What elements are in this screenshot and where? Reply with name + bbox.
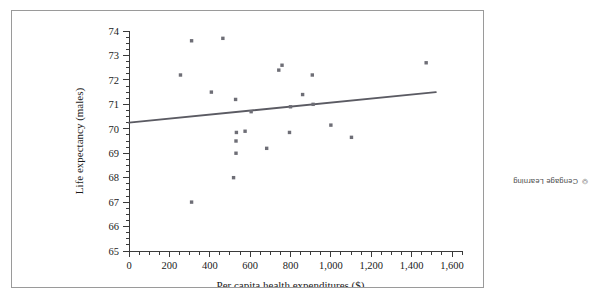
data-point (350, 136, 353, 139)
data-point (221, 37, 224, 40)
data-point (234, 139, 237, 142)
data-point (277, 68, 280, 71)
y-tick-label: 65 (109, 246, 120, 257)
x-tick-label: 1,000 (319, 260, 343, 271)
data-point (235, 131, 238, 134)
data-point (311, 73, 314, 76)
data-point (265, 147, 268, 150)
y-tick-label: 66 (109, 221, 120, 232)
data-point (232, 176, 235, 179)
y-tick-label: 70 (109, 124, 120, 135)
y-tick-label: 68 (109, 172, 120, 183)
copyright-attribution: © Cengage Learning (513, 177, 589, 186)
trend-line (129, 92, 436, 123)
data-point (179, 73, 182, 76)
x-tick-label: 0 (126, 260, 131, 271)
x-tick-label: 400 (202, 260, 218, 271)
x-tick-label: 600 (242, 260, 258, 271)
y-tick-label: 74 (109, 26, 120, 37)
y-axis-title: Life expectancy (males) (73, 88, 86, 195)
data-point (280, 64, 283, 67)
x-tick-label: 800 (283, 260, 299, 271)
data-point (243, 130, 246, 133)
data-point (311, 103, 314, 106)
data-point (190, 39, 193, 42)
data-point (301, 93, 304, 96)
y-tick-label: 67 (109, 197, 120, 208)
plot-frame: 6566676869707172737402004006008001,0001,… (11, 10, 484, 288)
x-tick-label: 1,600 (440, 260, 464, 271)
y-tick-label: 73 (109, 50, 120, 61)
y-tick-label: 71 (109, 99, 120, 110)
data-point (329, 123, 332, 126)
data-point (424, 61, 427, 64)
data-point (289, 105, 292, 108)
data-point (288, 131, 291, 134)
data-point (190, 200, 193, 203)
data-point (210, 90, 213, 93)
x-tick-label: 1,400 (400, 260, 424, 271)
x-axis-title: Per capita health expenditures ($) (217, 279, 365, 287)
data-point (234, 98, 237, 101)
y-tick-label: 72 (109, 75, 120, 86)
y-tick-label: 69 (109, 148, 120, 159)
x-tick-label: 200 (162, 260, 178, 271)
data-point (249, 110, 252, 113)
scatter-chart: 6566676869707172737402004006008001,0001,… (12, 11, 483, 287)
data-point (234, 152, 237, 155)
x-tick-label: 1,200 (359, 260, 383, 271)
